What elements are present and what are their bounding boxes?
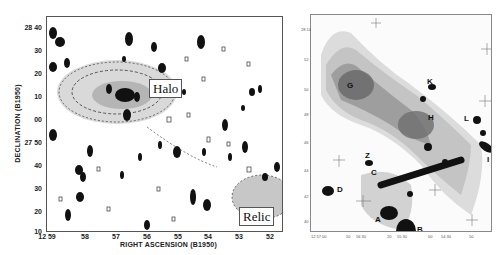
right-y-tick: 44 <box>304 168 308 173</box>
y-tick: 27 50 <box>16 139 42 146</box>
y-tick: 28 40 <box>16 24 42 31</box>
y-tick: 40 <box>16 162 42 169</box>
source-label-a: A <box>375 215 381 224</box>
x-tick: 58 <box>75 233 95 240</box>
right-y-tick: 48 <box>304 112 308 117</box>
source-label-c: C <box>371 168 377 177</box>
source-label-l: L <box>464 114 469 123</box>
source-label-h: H <box>428 113 434 122</box>
source-label-d: D <box>337 185 343 194</box>
right-x-tick: 12 57 00 <box>311 234 327 239</box>
radio-map-halo-relic: Halo Relic <box>46 16 283 232</box>
y-tick: 20 <box>16 70 42 77</box>
right-y-tick: 52 <box>304 57 308 62</box>
halo-label: Halo <box>149 79 182 98</box>
right-y-tick: 46 <box>304 140 308 145</box>
source-label-g: G <box>347 81 353 90</box>
right-y-tick: 42 <box>304 194 308 199</box>
x-tick: 56 <box>137 233 157 240</box>
y-tick: 20 <box>16 208 42 215</box>
x-tick: 55 <box>168 233 188 240</box>
x-tick: 53 <box>229 233 249 240</box>
source-label-z: Z <box>365 151 370 160</box>
x-axis-label: RIGHT ASCENSION (B1950) <box>120 241 217 248</box>
contour-map <box>47 17 283 232</box>
source-label-b: B <box>417 225 423 232</box>
right-x-tick: 55 30 <box>397 234 407 239</box>
x-tick: 12 59 <box>33 233 61 240</box>
y-tick: 30 <box>16 47 42 54</box>
right-x-tick: 56 30 <box>356 234 366 239</box>
right-x-tick: 54 30 <box>441 234 451 239</box>
source-label-i: I <box>487 155 489 164</box>
right-x-tick: 00 <box>428 234 432 239</box>
x-tick: 52 <box>260 233 280 240</box>
x-tick: 54 <box>198 233 218 240</box>
right-y-tick: 40 <box>304 219 308 224</box>
source-label-k: K <box>427 77 433 86</box>
x-tick: 57 <box>106 233 126 240</box>
right-x-tick: 20 <box>387 234 391 239</box>
y-tick: 30 <box>16 185 42 192</box>
right-x-tick: 50 <box>469 234 473 239</box>
optical-xray-overlay-map: G K H L I Z C D A B <box>310 14 492 232</box>
relic-label: Relic <box>239 207 274 226</box>
y-tick: 00 <box>16 116 42 123</box>
right-y-tick: 28 14 <box>301 27 311 32</box>
y-tick: 10 <box>16 93 42 100</box>
right-x-tick: 50 <box>346 234 350 239</box>
y-axis-label: DECLINATION (B1950) <box>14 79 21 169</box>
right-y-tick: 50 <box>304 87 308 92</box>
grayscale-contour-map <box>311 15 492 232</box>
